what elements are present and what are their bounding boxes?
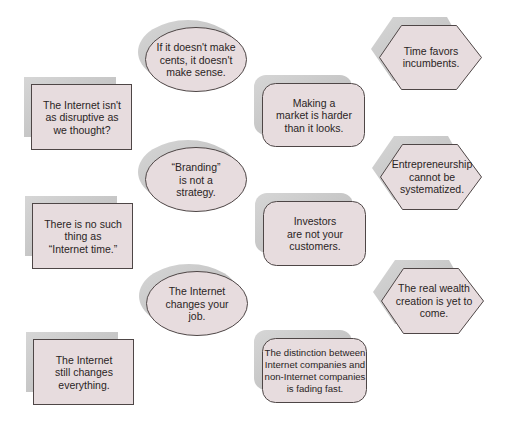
- ellipse-node-changes-your-job: The Internet changes your job.: [138, 264, 250, 339]
- hexagon-node-entrepreneurship: Entrepreneurship cannot be systematized.: [372, 136, 486, 212]
- node-label: Entrepreneurship cannot be systematized.: [384, 144, 480, 210]
- rect-node-internet-not-disruptive: The Internet isn't as disruptive as we t…: [24, 77, 134, 152]
- node-label: The Internet still changes everything.: [34, 340, 134, 405]
- hexagon-node-time-favors-incumbents: Time favors incumbents.: [371, 17, 485, 93]
- node-label: Making a market is harder than it looks.: [263, 84, 365, 147]
- node-label: If it doesn't make cents, it doesn't mak…: [151, 28, 241, 92]
- hexagon-node-real-wealth-creation: The real wealth creation is yet to come.: [373, 260, 487, 336]
- rounded-rect-node-distinction-fading: The distinction between Internet compani…: [254, 330, 370, 406]
- rounded-rect-node-making-a-market: Making a market is harder than it looks.: [254, 75, 368, 149]
- node-label: Time favors incumbents.: [385, 25, 477, 89]
- ellipse-node-branding: “Branding” is not a strategy.: [137, 140, 249, 215]
- node-label: There is no such thing as “Internet time…: [33, 204, 133, 269]
- ellipse-node-cents-sense: If it doesn't make cents, it doesn't mak…: [137, 20, 249, 95]
- node-label: “Branding” is not a strategy.: [151, 148, 241, 212]
- rounded-rect-node-investors: Investors are not your customers.: [255, 193, 369, 267]
- node-label: The distinction between Internet compani…: [263, 339, 367, 403]
- node-label: Investors are not your customers.: [264, 202, 366, 266]
- rect-node-no-internet-time: There is no such thing as “Internet time…: [25, 196, 135, 271]
- node-label: The Internet changes your job.: [152, 272, 242, 336]
- node-label: The real wealth creation is yet to come.: [385, 268, 483, 334]
- rect-node-internet-still-changes: The Internet still changes everything.: [26, 332, 136, 407]
- node-label: The Internet isn't as disruptive as we t…: [32, 85, 132, 150]
